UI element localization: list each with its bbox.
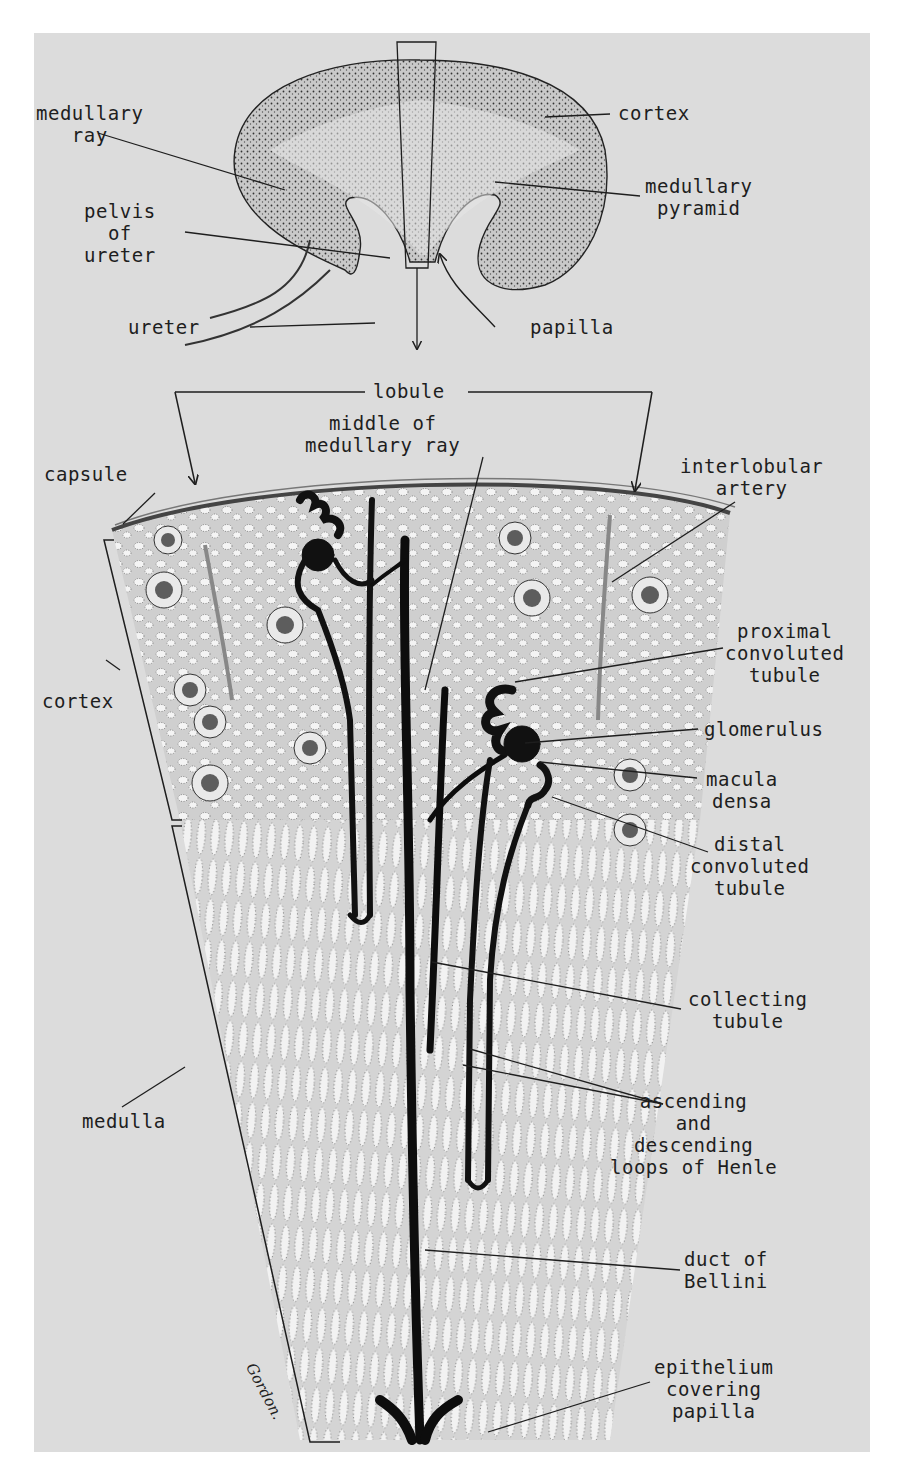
label-line: tubule: [725, 664, 844, 686]
label-line: of: [84, 222, 156, 244]
label-proximal-convoluted-tubule: proximal convoluted tubule: [725, 620, 844, 686]
label-ureter: ureter: [128, 316, 200, 338]
label-line: cortex: [618, 102, 690, 124]
label-medullary-pyramid: medullary pyramid: [645, 175, 752, 219]
label-line: ureter: [128, 316, 200, 338]
label-lobule: lobule: [373, 380, 445, 402]
label-line: epithelium: [654, 1356, 773, 1378]
label-loops-of-henle: ascending and descending loops of Henle: [610, 1090, 777, 1178]
label-line: middle of: [305, 412, 460, 434]
label-line: densa: [706, 790, 778, 812]
label-line: capsule: [44, 463, 128, 485]
label-line: medulla: [82, 1110, 166, 1132]
label-pelvis-of-ureter: pelvis of ureter: [84, 200, 156, 266]
label-line: tubule: [688, 1010, 807, 1032]
label-line: artery: [680, 477, 823, 499]
label-line: medullary: [36, 102, 143, 124]
label-line: ray: [36, 124, 143, 146]
label-duct-of-bellini: duct of Bellini: [684, 1248, 768, 1292]
label-line: pelvis: [84, 200, 156, 222]
label-line: descending: [610, 1134, 777, 1156]
label-line: proximal: [725, 620, 844, 642]
label-line: convoluted: [725, 642, 844, 664]
label-line: duct of: [684, 1248, 768, 1270]
label-glomerulus: glomerulus: [704, 718, 823, 740]
label-line: lobule: [373, 380, 445, 402]
label-epithelium-covering-papilla: epithelium covering papilla: [654, 1356, 773, 1422]
label-line: medullary: [645, 175, 752, 197]
label-medulla: medulla: [82, 1110, 166, 1132]
label-line: distal: [690, 833, 809, 855]
label-line: and: [610, 1112, 777, 1134]
kidney-section: [185, 42, 607, 348]
label-line: macula: [706, 768, 778, 790]
label-cortex-lobule: cortex: [42, 690, 114, 712]
label-line: glomerulus: [704, 718, 823, 740]
label-line: tubule: [690, 877, 809, 899]
label-line: Bellini: [684, 1270, 768, 1292]
label-line: interlobular: [680, 455, 823, 477]
label-medullary-ray: medullary ray: [36, 102, 143, 146]
label-cortex-kidney: cortex: [618, 102, 690, 124]
label-macula-densa: macula densa: [706, 768, 778, 812]
label-interlobular-artery: interlobular artery: [680, 455, 823, 499]
label-line: pyramid: [645, 197, 752, 219]
label-collecting-tubule: collecting tubule: [688, 988, 807, 1032]
label-line: cortex: [42, 690, 114, 712]
label-line: collecting: [688, 988, 807, 1010]
lobule-section: [104, 392, 735, 1442]
label-line: papilla: [654, 1400, 773, 1422]
label-middle-of-medullary-ray: middle of medullary ray: [305, 412, 460, 456]
label-capsule: capsule: [44, 463, 128, 485]
label-line: papilla: [530, 316, 614, 338]
label-line: ascending: [610, 1090, 777, 1112]
label-line: medullary ray: [305, 434, 460, 456]
label-line: covering: [654, 1378, 773, 1400]
label-papilla: papilla: [530, 316, 614, 338]
label-line: convoluted: [690, 855, 809, 877]
label-distal-convoluted-tubule: distal convoluted tubule: [690, 833, 809, 899]
label-line: ureter: [84, 244, 156, 266]
label-line: loops of Henle: [610, 1156, 777, 1178]
